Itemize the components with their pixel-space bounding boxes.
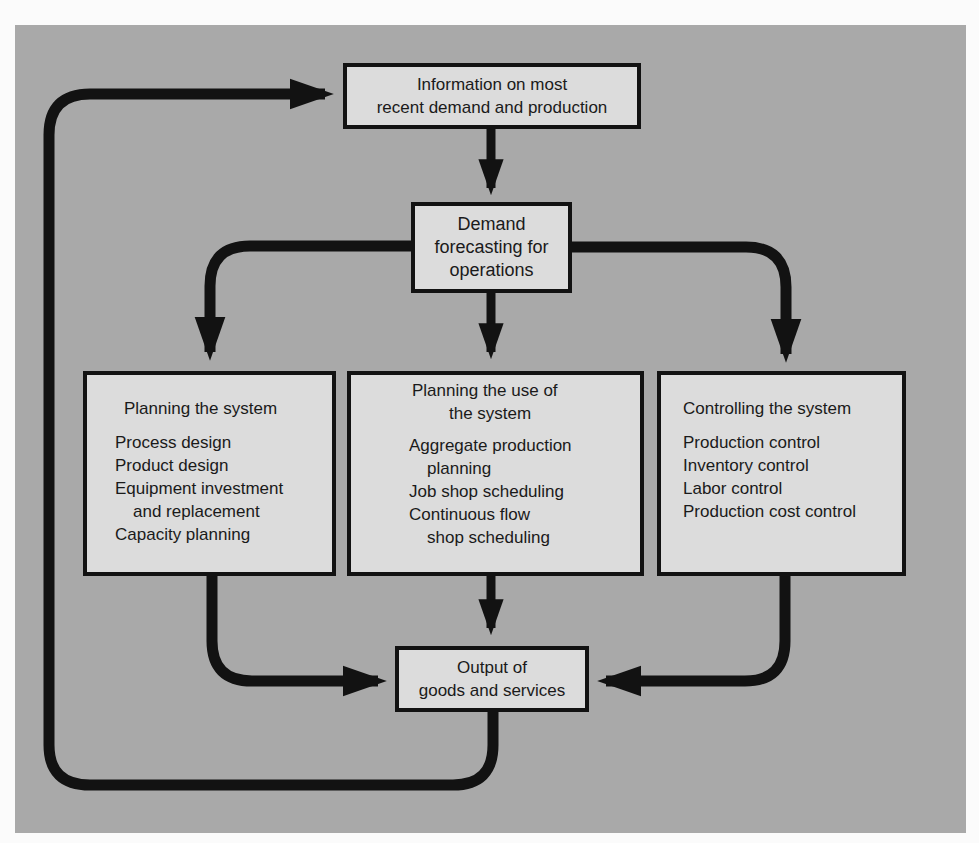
list-item: Production control <box>683 431 902 454</box>
arrow-forecast-to-controlling <box>571 247 786 354</box>
node-controlling: Controlling the system Production contro… <box>657 371 906 576</box>
node-controlling-title: Controlling the system <box>683 397 902 420</box>
node-information: Information on most recent demand and pr… <box>343 63 641 129</box>
node-forecasting-line-2: forecasting for <box>415 236 568 259</box>
list-item: Aggregate production <box>409 434 640 457</box>
node-output-line-1: Output of <box>399 656 585 679</box>
node-forecasting-line-3: operations <box>415 259 568 282</box>
node-information-line-1: Information on most <box>347 73 637 96</box>
list-item: Continuous flow <box>409 503 640 526</box>
node-information-line-2: recent demand and production <box>347 96 637 119</box>
node-planning-use: Planning the use of the system Aggregate… <box>347 371 644 576</box>
list-item: and replacement <box>115 500 332 523</box>
list-item: Production cost control <box>683 500 902 523</box>
node-planning-system: Planning the system Process design Produ… <box>83 371 336 576</box>
list-item: Inventory control <box>683 454 902 477</box>
node-planning-system-items: Process design Product design Equipment … <box>115 431 332 546</box>
list-item: Process design <box>115 431 332 454</box>
arrow-forecast-to-planning-system <box>210 246 412 352</box>
node-forecasting: Demand forecasting for operations <box>411 202 572 293</box>
list-item: Capacity planning <box>115 523 332 546</box>
list-item: planning <box>409 457 640 480</box>
list-item: Product design <box>115 454 332 477</box>
node-planning-system-title: Planning the system <box>115 397 332 420</box>
arrow-controlling-to-output <box>606 575 785 681</box>
node-forecasting-line-1: Demand <box>415 213 568 236</box>
list-item: shop scheduling <box>409 526 640 549</box>
arrow-planning-system-to-output <box>212 575 378 681</box>
node-planning-use-title-2: the system <box>409 402 640 425</box>
list-item: Labor control <box>683 477 902 500</box>
node-planning-use-title-1: Planning the use of <box>409 379 640 402</box>
node-controlling-items: Production control Inventory control Lab… <box>683 431 902 523</box>
node-output: Output of goods and services <box>395 646 589 712</box>
node-output-line-2: goods and services <box>399 679 585 702</box>
list-item: Job shop scheduling <box>409 480 640 503</box>
node-planning-use-items: Aggregate production planning Job shop s… <box>409 434 640 549</box>
list-item: Equipment investment <box>115 477 332 500</box>
